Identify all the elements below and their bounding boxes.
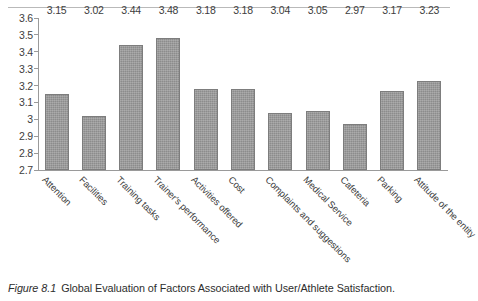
y-axis-tick-label: 3.1 bbox=[19, 96, 38, 108]
bar-value-label: 3.48 bbox=[159, 4, 179, 16]
bar-chart: 3.63.53.43.33.23.132.92.82.7 3.153.023.4… bbox=[0, 0, 458, 262]
bar-value-label: 3.44 bbox=[121, 4, 141, 16]
x-axis-category-label: Trainer's performance bbox=[152, 174, 224, 246]
bar-group[interactable]: 3.18 bbox=[194, 18, 218, 170]
x-axis-line bbox=[38, 170, 448, 171]
y-axis-tick-label: 2.7 bbox=[19, 164, 38, 176]
y-axis-tick-label: 2.9 bbox=[19, 130, 38, 142]
bar-group[interactable]: 3.04 bbox=[268, 18, 292, 170]
bar-value-label: 3.02 bbox=[84, 4, 104, 16]
x-axis-category-label: Attitude of the entity bbox=[413, 174, 478, 240]
bar[interactable] bbox=[119, 45, 143, 170]
bar[interactable] bbox=[417, 81, 441, 171]
bar-value-label: 3.15 bbox=[47, 4, 67, 16]
bar-value-label: 3.23 bbox=[420, 4, 440, 16]
bar[interactable] bbox=[231, 89, 255, 170]
bar-value-label: 3.05 bbox=[308, 4, 328, 16]
x-axis-category-label: Attention bbox=[40, 174, 74, 208]
figure-caption: Figure 8.1Global Evaluation of Factors A… bbox=[8, 282, 454, 294]
bar-value-label: 3.17 bbox=[382, 4, 402, 16]
y-axis-tick-label: 3 bbox=[27, 113, 38, 125]
bar[interactable] bbox=[194, 89, 218, 170]
x-axis-category-label: Cafeteria bbox=[338, 174, 372, 208]
bar[interactable] bbox=[45, 94, 69, 170]
bar[interactable] bbox=[343, 124, 367, 170]
bar[interactable] bbox=[268, 113, 292, 170]
y-axis-tick-label: 2.8 bbox=[19, 147, 38, 159]
bar[interactable] bbox=[380, 91, 404, 170]
bar-group[interactable]: 2.97 bbox=[343, 18, 367, 170]
bar-value-label: 2.97 bbox=[345, 4, 365, 16]
y-axis-tick-label: 3.6 bbox=[19, 12, 38, 24]
y-axis-tick-label: 3.4 bbox=[19, 46, 38, 58]
bar[interactable] bbox=[82, 116, 106, 170]
x-axis-category-label: Parking bbox=[375, 174, 405, 204]
bar-group[interactable]: 3.15 bbox=[45, 18, 69, 170]
figure-caption-text: Global Evaluation of Factors Associated … bbox=[61, 282, 395, 294]
bar-group[interactable]: 3.44 bbox=[119, 18, 143, 170]
plot-area: 3.153.023.443.483.183.183.043.052.973.17… bbox=[38, 18, 448, 170]
bar-value-label: 3.18 bbox=[233, 4, 253, 16]
y-axis-tick-label: 3.5 bbox=[19, 29, 38, 41]
figure-caption-label: Figure 8.1 bbox=[8, 282, 56, 294]
bar[interactable] bbox=[156, 38, 180, 170]
bar-group[interactable]: 3.05 bbox=[306, 18, 330, 170]
bar-group[interactable]: 3.17 bbox=[380, 18, 404, 170]
x-axis-category-label: Cost bbox=[226, 174, 247, 195]
bar-group[interactable]: 3.48 bbox=[156, 18, 180, 170]
bar-group[interactable]: 3.23 bbox=[417, 18, 441, 170]
y-axis-tick-label: 3.2 bbox=[19, 80, 38, 92]
bar-group[interactable]: 3.02 bbox=[82, 18, 106, 170]
bar-group[interactable]: 3.18 bbox=[231, 18, 255, 170]
bar[interactable] bbox=[306, 111, 330, 170]
y-axis-tick-label: 3.3 bbox=[19, 63, 38, 75]
bar-value-label: 3.04 bbox=[270, 4, 290, 16]
bar-value-label: 3.18 bbox=[196, 4, 216, 16]
x-axis-category-label: Facilities bbox=[77, 174, 110, 207]
